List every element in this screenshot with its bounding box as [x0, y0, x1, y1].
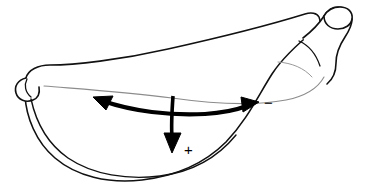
- banana-curvature-figure: − +: [0, 0, 374, 185]
- positive-direction-label: +: [184, 141, 193, 158]
- banana-stem-cut-ellipse: [324, 7, 352, 29]
- downward-arrow: [172, 96, 173, 137]
- banana-diagram-canvas: − +: [0, 0, 374, 185]
- negative-direction-label: −: [264, 94, 273, 111]
